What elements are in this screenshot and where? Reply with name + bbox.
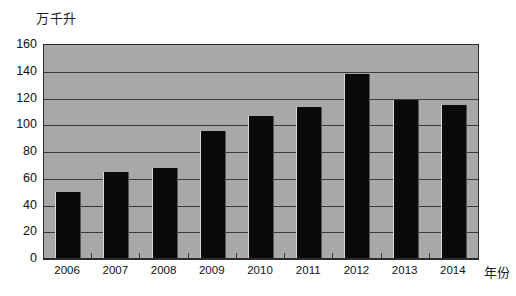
x-axis-unit-label: 年份: [484, 262, 510, 281]
x-axis-tick-mark: [381, 253, 382, 258]
x-axis-tick-mark: [91, 253, 92, 258]
x-axis-line: [43, 258, 479, 260]
bar: [441, 105, 467, 259]
bar: [344, 74, 370, 259]
x-axis-tick-label: 2010: [247, 264, 273, 276]
bar: [296, 107, 322, 259]
x-axis-tick-mark: [284, 253, 285, 258]
y-axis-tick-label: 60: [7, 171, 37, 185]
y-axis-tick-labels: 020406080100120140160: [3, 44, 37, 258]
y-axis-tick-label: 100: [7, 117, 37, 131]
bar: [152, 168, 178, 259]
y-axis-tick-label: 120: [7, 91, 37, 105]
x-axis-tick-mark: [188, 253, 189, 258]
y-axis-tick-label: 20: [7, 224, 37, 238]
x-axis-tick-mark: [429, 253, 430, 258]
x-axis-tick-mark: [236, 253, 237, 258]
bar: [103, 172, 129, 259]
y-axis-unit-label: 万千升: [36, 8, 77, 27]
x-axis-tick-label: 2014: [440, 264, 466, 276]
bar: [200, 131, 226, 259]
x-axis-tick-label: 2008: [151, 264, 177, 276]
y-axis-tick-label: 160: [7, 37, 37, 51]
x-axis-tick-label: 2007: [103, 264, 129, 276]
x-axis-tick-mark: [332, 253, 333, 258]
bar: [55, 192, 81, 259]
bars-layer: [44, 45, 478, 259]
bar: [248, 116, 274, 259]
bar: [393, 100, 419, 259]
x-axis-tick-label: 2006: [54, 264, 80, 276]
plot-area: [43, 44, 479, 260]
x-axis-tick-label: 2013: [392, 264, 418, 276]
x-axis-tick-label: 2009: [199, 264, 225, 276]
y-axis-tick-label: 40: [7, 198, 37, 212]
x-axis-tick-mark: [139, 253, 140, 258]
x-axis-tick-label: 2011: [296, 264, 321, 276]
y-axis-tick-label: 140: [7, 64, 37, 78]
y-axis-tick-label: 80: [7, 144, 37, 158]
bar-chart: 万千升 020406080100120140160 20062007200820…: [0, 0, 516, 296]
y-axis-tick-label: 0: [7, 251, 37, 265]
x-axis-tick-label: 2012: [344, 264, 370, 276]
